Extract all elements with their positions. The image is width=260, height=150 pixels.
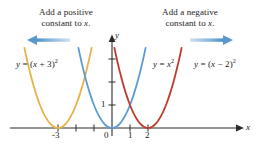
right-annotation: Add a negative constant to x. <box>152 7 228 29</box>
left-annotation-line1: Add a positive <box>28 7 104 18</box>
y-tick-label-1: 1 <box>101 99 106 109</box>
left-arrow <box>27 35 70 45</box>
right-annotation-line1: Add a negative <box>152 7 228 18</box>
curve-label-shift-right: y = (x − 2)2 <box>194 59 236 69</box>
y-axis-label: y <box>115 30 119 40</box>
parabola-translation-figure: Add a positive constant to x. Add a nega… <box>0 0 260 150</box>
left-annotation-line2: constant to x. <box>28 18 104 29</box>
origin-label: 0 <box>104 130 109 140</box>
right-annotation-line2: constant to x. <box>152 18 228 29</box>
x-axis-label: x <box>246 122 250 132</box>
left-annotation: Add a positive constant to x. <box>28 7 104 29</box>
x-tick-label--3: -3 <box>52 130 60 140</box>
x-tick-label-1: 1 <box>128 130 133 140</box>
right-arrow <box>190 35 233 45</box>
curve-label-base: y = x2 <box>153 59 174 69</box>
curve-label-shift-left: y = (x + 3)2 <box>16 59 58 69</box>
x-axis <box>10 124 244 131</box>
x-tick-label-2: 2 <box>145 130 150 140</box>
